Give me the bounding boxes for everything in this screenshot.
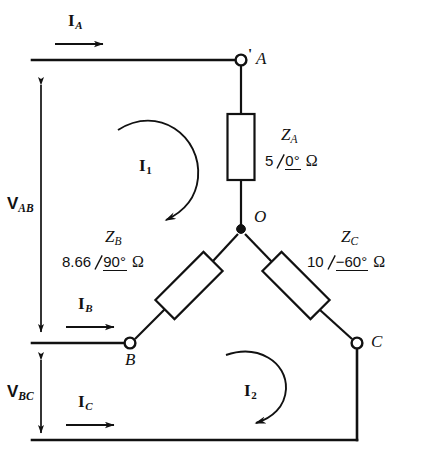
impedance-zb-angle: 90°: [103, 254, 127, 271]
impedance-za-box: [228, 114, 255, 180]
voltage-vbc-subscript: BC: [18, 390, 33, 402]
current-label-ib: IB: [78, 295, 92, 314]
circuit-diagram: ' A O B C IA IB IC I1 I2 VAB VBC ZA 5 0°…: [0, 0, 429, 466]
impedance-zc-angle: −60°: [336, 254, 368, 271]
branch-b-o-lower-lead: [135, 309, 165, 339]
angle-symbol-icon: [94, 254, 103, 271]
branch-o-c-upper-lead: [245, 234, 272, 262]
impedance-zc-name-subscript: C: [350, 235, 358, 247]
impedance-za-name: ZA: [281, 126, 298, 146]
impedance-zb-magnitude: 8.66: [62, 254, 94, 269]
branch-o-c-lower-lead: [320, 310, 352, 339]
node-b-terminal: [125, 338, 136, 349]
mesh-current-label-i1: I1: [139, 157, 152, 176]
angle-symbol-icon: [276, 153, 285, 170]
branch-b-o-upper-lead: [213, 234, 238, 261]
impedance-zb-name: ZB: [105, 228, 122, 248]
node-label-b: B: [125, 351, 135, 368]
mesh-current-i2-subscript: 2: [251, 389, 257, 401]
current-ia-subscript: A: [75, 19, 83, 31]
current-label-ic: IC: [78, 393, 92, 412]
voltage-vbc-symbol: V: [7, 382, 18, 401]
node-o-junction: [237, 225, 246, 234]
node-a-terminal-tick: ': [248, 47, 252, 62]
circuit-schematic-svg: [0, 0, 429, 466]
voltage-vab-subscript: AB: [18, 202, 33, 214]
mesh-current-i1-arc: [118, 121, 198, 220]
impedance-zc-magnitude: 10: [307, 254, 327, 269]
voltage-vab-symbol: V: [7, 194, 18, 213]
node-c-terminal: [352, 338, 363, 349]
impedance-zc-angle-group: −60°: [327, 254, 368, 271]
impedance-za-magnitude: 5: [265, 153, 276, 168]
impedance-zb-value: 8.66 90° Ω: [62, 254, 144, 271]
mesh-current-label-i2: I2: [244, 382, 257, 401]
current-ib-symbol: I: [78, 294, 85, 313]
current-ib-subscript: B: [85, 302, 93, 314]
current-ia-symbol: I: [68, 11, 75, 30]
impedance-zc-unit: Ω: [368, 254, 385, 270]
node-a-terminal: [236, 55, 247, 66]
mesh-current-i1-subscript: 1: [146, 164, 152, 176]
angle-symbol-icon: [327, 254, 336, 271]
impedance-zc-value: 10 −60° Ω: [307, 254, 385, 271]
voltage-label-vbc: VBC: [7, 383, 34, 403]
impedance-za-angle-group: 0°: [276, 153, 300, 170]
current-ic-symbol: I: [78, 392, 85, 411]
node-label-c: C: [371, 333, 382, 350]
impedance-za-angle: 0°: [285, 153, 300, 170]
impedance-za-value: 5 0° Ω: [265, 153, 318, 170]
impedance-zb-unit: Ω: [127, 254, 144, 270]
supply-lines: [32, 60, 357, 440]
node-label-a: A: [256, 50, 266, 67]
impedance-zc-name: ZC: [341, 228, 358, 248]
impedance-zb-angle-group: 90°: [94, 254, 127, 271]
current-ic-subscript: C: [85, 400, 93, 412]
mesh-current-i2-symbol: I: [244, 381, 251, 400]
impedance-zb-box: [155, 252, 222, 319]
impedance-zb-name-subscript: B: [114, 235, 121, 247]
current-label-ia: IA: [68, 12, 82, 31]
mesh-current-i1-symbol: I: [139, 156, 146, 175]
impedance-za-name-subscript: A: [290, 133, 297, 145]
node-label-o: O: [254, 208, 266, 225]
impedance-za-unit: Ω: [301, 153, 318, 169]
voltage-label-vab: VAB: [7, 195, 34, 215]
